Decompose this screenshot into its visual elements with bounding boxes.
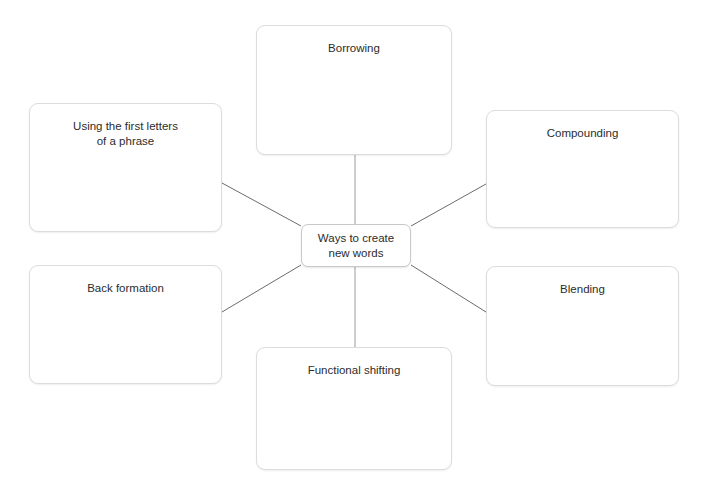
node-borrowing[interactable]: Borrowing — [256, 25, 452, 155]
node-using-the-first-letters-of-a-phrase-label: Using the first letters of a phrase — [30, 119, 221, 149]
node-blending-label: Blending — [487, 282, 678, 297]
node-compounding-label: Compounding — [487, 126, 678, 141]
node-center-label: Ways to create new words — [318, 231, 394, 261]
node-using-the-first-letters-of-a-phrase[interactable]: Using the first letters of a phrase — [29, 103, 222, 232]
node-functional-shifting[interactable]: Functional shifting — [256, 347, 452, 470]
diagram-canvas: Borrowing Using the first letters of a p… — [0, 0, 708, 493]
node-borrowing-label: Borrowing — [257, 41, 451, 56]
node-back-formation-label: Back formation — [30, 281, 221, 296]
connector-center-to-bottom-right — [411, 265, 486, 312]
connector-center-to-top-left — [222, 183, 301, 226]
node-compounding[interactable]: Compounding — [486, 110, 679, 228]
connector-center-to-bottom-left — [222, 265, 301, 312]
node-back-formation[interactable]: Back formation — [29, 265, 222, 384]
node-functional-shifting-label: Functional shifting — [257, 363, 451, 378]
connector-center-to-top-right — [411, 184, 486, 226]
node-blending[interactable]: Blending — [486, 266, 679, 386]
node-center-ways-to-create-new-words[interactable]: Ways to create new words — [301, 224, 411, 267]
